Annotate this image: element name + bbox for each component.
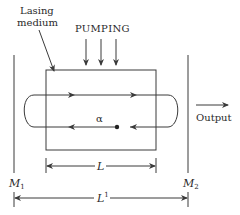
- beam-right-loop: [168, 95, 178, 127]
- lasing-medium-label: Lasing medium: [17, 5, 58, 71]
- beam-left-loop: [24, 95, 34, 127]
- lasing-label-line1: Lasing: [20, 5, 54, 16]
- output-label: Output: [196, 112, 232, 123]
- pumping-label: PUMPING: [75, 23, 130, 34]
- pumping-group: PUMPING: [75, 23, 130, 65]
- beam-origin-dot: [115, 125, 119, 129]
- length-Lprime-dimension: L1: [15, 191, 187, 205]
- Lprime-label: L1: [96, 191, 109, 205]
- lasing-label-line2: medium: [17, 17, 58, 28]
- M2-label: M2: [182, 177, 199, 191]
- output-group: Output: [196, 105, 232, 123]
- L-label: L: [96, 160, 104, 173]
- laser-cavity-diagram: Lasing medium PUMPING: [0, 0, 240, 215]
- length-L-dimension: L: [46, 158, 156, 173]
- lasing-medium-box: [46, 70, 156, 150]
- lasing-medium-leader-line: [39, 30, 54, 71]
- alpha-label: α: [96, 113, 103, 124]
- M1-label: M1: [8, 177, 25, 191]
- beam-path: α: [24, 92, 178, 130]
